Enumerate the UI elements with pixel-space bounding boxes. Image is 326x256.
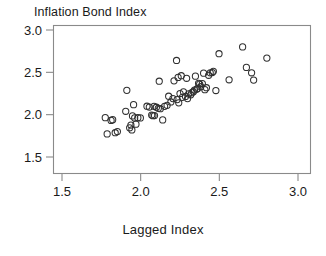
- data-point: [123, 108, 129, 114]
- data-point: [184, 75, 190, 81]
- x-tick-label: 2.0: [132, 184, 150, 199]
- data-point: [213, 87, 219, 93]
- data-point: [171, 78, 177, 84]
- data-point: [226, 77, 232, 83]
- data-point: [173, 57, 179, 63]
- data-point: [102, 115, 108, 121]
- x-axis-ticks: 1.52.02.53.0: [53, 174, 307, 200]
- data-point: [203, 85, 209, 91]
- data-point: [216, 51, 222, 57]
- x-tick-label: 1.5: [53, 184, 71, 199]
- plot-canvas: 1.52.02.53.0 1.52.02.53.0: [0, 0, 326, 256]
- data-points: [102, 44, 270, 137]
- y-tick-label: 2.0: [24, 107, 42, 122]
- scatter-plot-figure: Inflation Bond Index 1.52.02.53.0 1.52.0…: [0, 0, 326, 256]
- y-tick-label: 1.5: [24, 150, 42, 165]
- data-point: [130, 102, 136, 108]
- y-tick-label: 2.5: [24, 65, 42, 80]
- data-point: [160, 117, 166, 123]
- data-point: [156, 78, 162, 84]
- plot-frame: [54, 26, 311, 174]
- x-tick-label: 2.5: [210, 184, 228, 199]
- data-point: [243, 64, 249, 70]
- data-point: [124, 87, 130, 93]
- y-axis-ticks: 1.52.02.53.0: [24, 23, 54, 165]
- x-axis-label: Lagged Index: [0, 222, 326, 237]
- y-tick-label: 3.0: [24, 23, 42, 38]
- data-point: [264, 55, 270, 61]
- x-tick-label: 3.0: [289, 184, 307, 199]
- data-point: [248, 70, 254, 76]
- data-point: [251, 77, 257, 83]
- data-point: [104, 131, 110, 137]
- data-point: [192, 73, 198, 79]
- data-point: [114, 129, 120, 135]
- data-point: [240, 44, 246, 50]
